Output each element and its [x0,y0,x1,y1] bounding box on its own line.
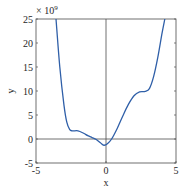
y-tick-label: 25 [23,14,33,25]
y-tick-label: 15 [23,62,33,73]
y-tick-label: 0 [28,134,33,145]
x-axis-label: x [104,177,109,188]
y-axis-label: y [5,89,16,94]
y-tick-label: 5 [28,110,33,121]
line-chart: -50510152025 -505 × 109 x y [0,0,188,193]
x-tick-label: -5 [32,165,40,176]
x-tick-label: 0 [104,165,109,176]
y-tick-label: 20 [23,38,33,49]
x-tick-label: 5 [174,165,179,176]
y-tick-label: 10 [23,86,33,97]
y-exponent-label: × 109 [36,4,58,16]
plot-area: -50510152025 -505 [23,14,179,177]
